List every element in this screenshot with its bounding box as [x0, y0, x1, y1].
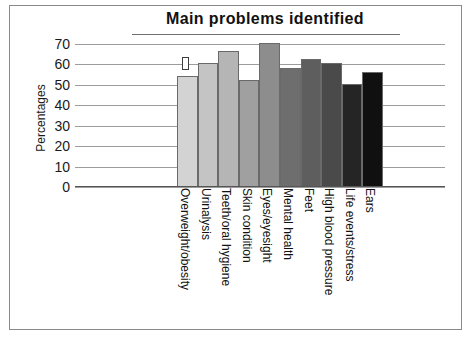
bar[interactable]: [218, 51, 239, 186]
plot-area: [75, 44, 445, 187]
bar[interactable]: [321, 63, 342, 186]
y-tick-label: 40: [14, 98, 70, 112]
category-label: Urinalysis: [200, 188, 212, 240]
category-label: Skin condition: [241, 188, 253, 263]
y-tick-label: 10: [14, 160, 70, 174]
figure-frame: Main problems identified Percentages 706…: [9, 5, 462, 330]
y-tick-label: 70: [14, 37, 70, 51]
annotation-marker: [182, 57, 189, 69]
bar[interactable]: [177, 76, 198, 186]
category-label: Teeth/oral hygiene: [220, 188, 232, 286]
category-label: High blood pressure: [323, 188, 335, 295]
category-label: Eyes/eyesight: [261, 188, 273, 263]
bar[interactable]: [301, 59, 322, 186]
y-tick-label: 30: [14, 119, 70, 133]
bar[interactable]: [362, 72, 383, 186]
bar[interactable]: [259, 43, 280, 186]
category-label: Overweight/obesity: [179, 188, 191, 290]
category-label: Ears: [364, 188, 376, 213]
chart-title: Main problems identified: [120, 10, 410, 28]
x-axis-baseline: [75, 186, 445, 187]
bar[interactable]: [342, 84, 363, 186]
category-label: Feet: [303, 188, 315, 212]
y-axis-tick-labels: 706050403020100: [10, 44, 70, 187]
bar[interactable]: [239, 80, 260, 186]
bar[interactable]: [280, 68, 301, 186]
category-label: Mental health: [282, 188, 294, 260]
bars-layer: [75, 44, 445, 186]
bar[interactable]: [198, 63, 219, 186]
y-tick-label: 20: [14, 139, 70, 153]
y-tick-label: 50: [14, 78, 70, 92]
title-underline-rule: [132, 34, 400, 35]
x-axis-category-labels: Overweight/obesityUrinalysisTeeth/oral h…: [10, 188, 471, 318]
category-label: Life events/stress: [344, 188, 356, 281]
y-tick-label: 60: [14, 57, 70, 71]
